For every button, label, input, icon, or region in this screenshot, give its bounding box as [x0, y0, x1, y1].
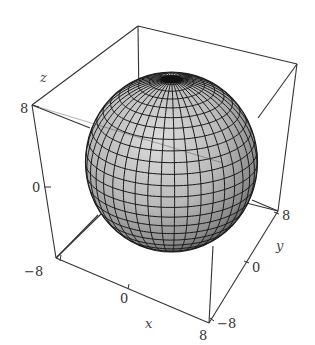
x-axis: −8 0 x 8 — [24, 264, 207, 343]
y-tick-min: −8 — [217, 316, 236, 331]
north-pole-cap — [161, 75, 183, 83]
x-axis-label: x — [145, 316, 153, 331]
y-tick-0: 0 — [252, 260, 260, 275]
y-axis-label: y — [275, 238, 284, 253]
sphere-surface — [85, 72, 257, 252]
x-tick-min: −8 — [24, 264, 43, 279]
x-tick-max: 8 — [199, 328, 207, 343]
y-tick-max: 8 — [282, 208, 290, 223]
z-axis-label: z — [39, 70, 47, 85]
z-tick-8: 8 — [20, 101, 28, 116]
x-tick-0: 0 — [120, 291, 128, 306]
sphere-3d-plot: z 8 0 −8 0 x 8 −8 0 y 8 — [0, 0, 315, 345]
z-tick-0: 0 — [32, 180, 40, 195]
